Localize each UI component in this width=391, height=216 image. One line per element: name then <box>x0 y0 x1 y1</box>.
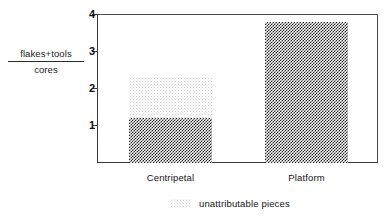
bar-segment-attributable-centripetal <box>129 118 212 163</box>
y-tick-label-3: 3 <box>55 46 95 57</box>
y-tick-label-2: 2 <box>55 83 95 94</box>
bar-segment-unattributable-centripetal <box>129 77 212 118</box>
bar-segment-attributable-platform <box>265 22 348 163</box>
legend-label-unattributable: unattributable pieces <box>199 198 290 209</box>
bar-centripetal[interactable] <box>129 77 212 163</box>
legend-swatch-unattributable <box>170 199 191 208</box>
y-tick-label-1: 1 <box>55 120 95 131</box>
y-tick-label-4: 4 <box>55 9 95 20</box>
chart-legend: unattributable pieces <box>170 198 290 209</box>
x-axis-label-platform: Platform <box>265 172 348 183</box>
y-axis-label-denominator: cores <box>8 62 84 76</box>
x-axis-label-centripetal: Centripetal <box>129 172 212 183</box>
bar-platform[interactable] <box>265 22 348 163</box>
bar-chart-figure: flakes+tools cores 4 3 2 1 Centripetal P… <box>0 0 391 216</box>
